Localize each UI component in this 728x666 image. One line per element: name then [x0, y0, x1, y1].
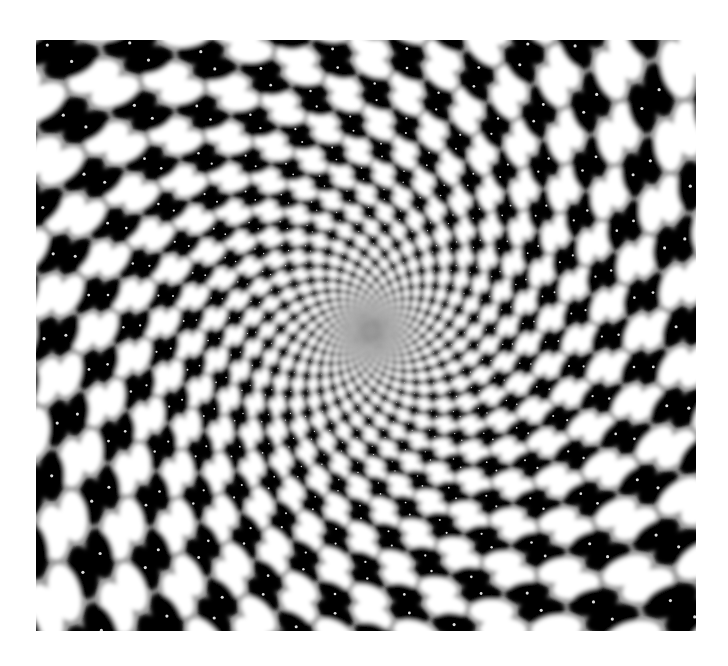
illusion-image	[36, 40, 696, 631]
radial-spiral-pattern	[36, 40, 696, 631]
image-caption: Radial op-art optical illusion	[0, 0, 1, 1]
